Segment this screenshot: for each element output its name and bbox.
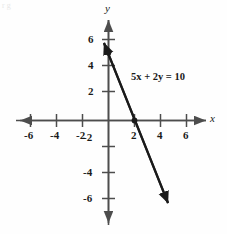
- x-tick-label-neg6: -6: [24, 130, 33, 141]
- graph-figure: x y 5x + 2y = 10 -6 -4 -2 2 4 6 6 4 2 -2…: [0, 0, 227, 234]
- y-tick-label-neg6: -6: [83, 193, 92, 204]
- equation-annotation: 5x + 2y = 10: [131, 72, 185, 83]
- x-tick-label-pos2: 2: [131, 130, 137, 141]
- y-tick-label-pos2: 2: [88, 86, 94, 97]
- y-tick-label-pos6: 6: [88, 34, 94, 45]
- y-tick-label-pos4: 4: [88, 60, 94, 71]
- plotted-line-up: [104, 43, 168, 203]
- y-axis-label: y: [105, 3, 110, 14]
- y-tick-label-neg2: -2: [83, 132, 92, 143]
- point-y-intercept: [106, 50, 111, 55]
- x-axis-label: x: [210, 113, 215, 124]
- x-tick-label-pos6: 6: [183, 130, 189, 141]
- point-x-intercept: [132, 118, 138, 124]
- y-tick-label-neg4: -4: [83, 167, 92, 178]
- x-tick-label-neg4: -4: [50, 130, 59, 141]
- coordinate-plane-svg: [0, 0, 227, 234]
- x-tick-label-pos4: 4: [157, 130, 163, 141]
- plotted-line-group: [104, 43, 168, 203]
- scan-artifact: r g: [2, 2, 11, 10]
